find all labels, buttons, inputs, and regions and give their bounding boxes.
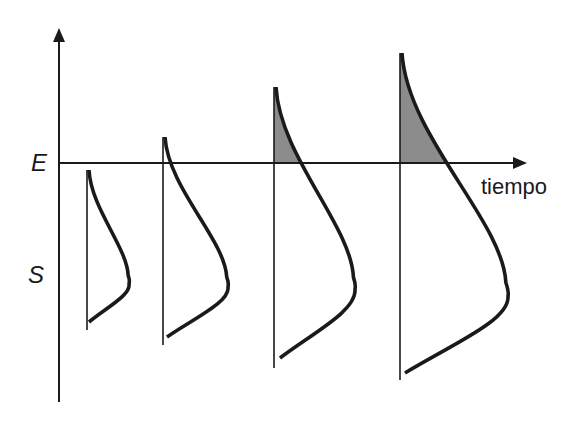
pulse-curve-4 <box>402 53 508 373</box>
pulse-curve-1 <box>89 170 129 322</box>
vertical-axis-arrow-icon <box>53 28 65 42</box>
label-e: E <box>31 151 47 175</box>
pulse-curve-2 <box>165 137 228 337</box>
pulse-curve-3 <box>276 87 355 358</box>
diagram-canvas <box>0 0 578 427</box>
pulse-curves <box>89 53 508 373</box>
label-tiempo: tiempo <box>481 176 547 198</box>
time-axis-arrow-icon <box>513 157 527 169</box>
label-s: S <box>28 263 44 287</box>
shaded-areas <box>274 53 447 163</box>
pulse-baselines <box>87 53 400 380</box>
pulse-diagram: E S tiempo <box>0 0 578 427</box>
shaded-area-4 <box>400 53 447 163</box>
